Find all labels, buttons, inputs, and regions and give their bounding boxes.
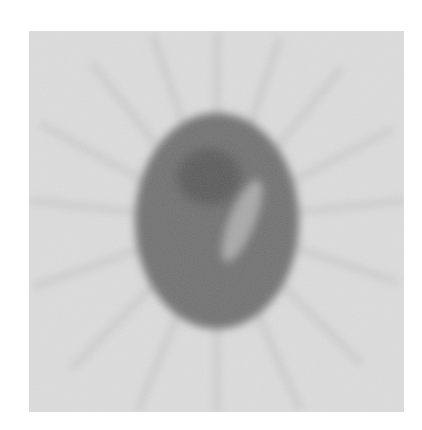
phantom-svg (29, 31, 404, 412)
phantom-image (29, 31, 404, 412)
noise-overlay (29, 31, 404, 412)
